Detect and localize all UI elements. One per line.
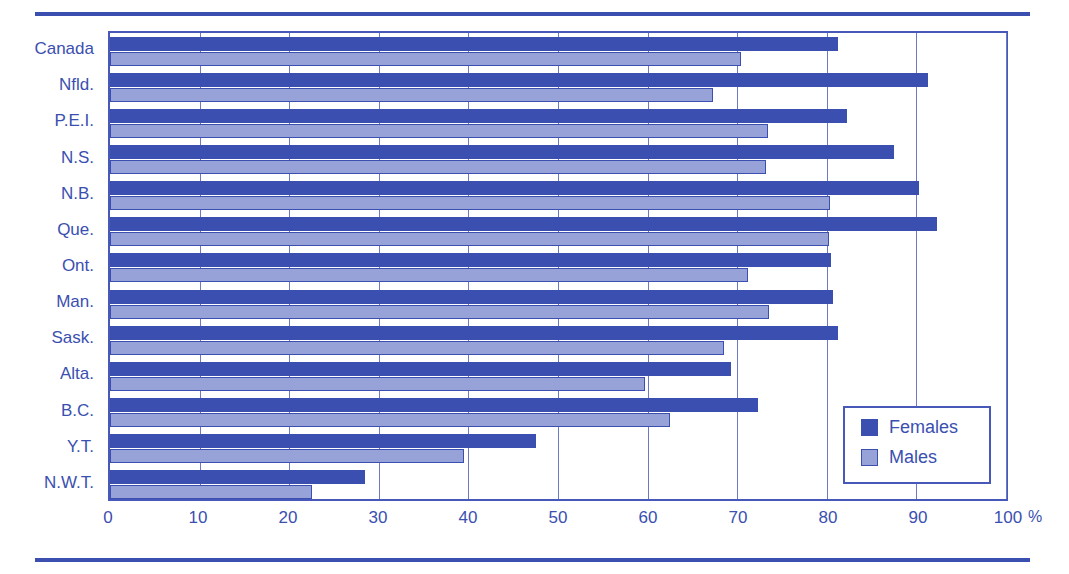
legend-label-females: Females (889, 418, 958, 436)
bar-males (110, 268, 748, 282)
bar-males (110, 160, 766, 174)
bar-row (110, 322, 1006, 358)
x-axis-tick-label: 60 (639, 508, 658, 528)
legend-item-males: Males (861, 448, 989, 466)
bar-females (110, 326, 838, 340)
bar-females (110, 470, 365, 484)
legend-swatch-males-icon (861, 449, 878, 466)
gridline (1006, 33, 1007, 499)
y-axis-tick-label: Alta. (60, 364, 94, 384)
chart-figure: CanadaNfld.P.E.I.N.S.N.B.Que.Ont.Man.Sas… (0, 0, 1069, 574)
x-axis-tick-label: 40 (459, 508, 478, 528)
y-axis-tick-label: B.C. (61, 401, 94, 421)
x-axis-tick-label: 0 (103, 508, 112, 528)
x-axis-tick-label: 100 (994, 508, 1022, 528)
bar-row (110, 105, 1006, 141)
bar-row (110, 141, 1006, 177)
bar-females (110, 145, 894, 159)
bar-males (110, 413, 670, 427)
legend-item-females: Females (861, 418, 989, 436)
top-rule (35, 12, 1030, 16)
chart-legend: Females Males (843, 406, 991, 484)
bar-males (110, 449, 464, 463)
bar-males (110, 88, 713, 102)
y-axis-tick-label: N.S. (61, 148, 94, 168)
bottom-rule (35, 558, 1030, 562)
bar-females (110, 181, 919, 195)
y-axis-tick-label: Canada (34, 39, 94, 59)
bar-females (110, 109, 847, 123)
bar-row (110, 33, 1006, 69)
y-axis-tick-label: Nfld. (59, 75, 94, 95)
x-axis-labels: 0102030405060708090100% (0, 508, 1069, 548)
x-axis-tick-label: 80 (819, 508, 838, 528)
x-axis-tick-label: 90 (909, 508, 928, 528)
bar-females (110, 37, 838, 51)
bar-males (110, 124, 768, 138)
bar-males (110, 485, 312, 499)
x-axis-tick-label: 30 (369, 508, 388, 528)
x-axis-tick-label: 50 (549, 508, 568, 528)
y-axis-tick-label: N.W.T. (44, 473, 94, 493)
bar-row (110, 250, 1006, 286)
y-axis-tick-label: Ont. (62, 256, 94, 276)
bar-row (110, 69, 1006, 105)
bar-females (110, 217, 937, 231)
y-axis-tick-label: N.B. (61, 184, 94, 204)
bar-males (110, 232, 829, 246)
x-axis-tick-label: 70 (729, 508, 748, 528)
bar-males (110, 341, 724, 355)
bar-males (110, 52, 741, 66)
bar-females (110, 290, 833, 304)
bar-males (110, 196, 830, 210)
legend-label-males: Males (889, 448, 937, 466)
bar-females (110, 73, 928, 87)
y-axis-tick-label: Sask. (51, 328, 94, 348)
y-axis-tick-label: Y.T. (67, 437, 94, 457)
y-axis-tick-label: Man. (56, 292, 94, 312)
bar-females (110, 434, 536, 448)
bar-females (110, 398, 758, 412)
x-axis-tick-label: 10 (189, 508, 208, 528)
y-axis-labels: CanadaNfld.P.E.I.N.S.N.B.Que.Ont.Man.Sas… (0, 31, 100, 501)
bar-females (110, 362, 731, 376)
bar-row (110, 178, 1006, 214)
y-axis-tick-label: Que. (57, 220, 94, 240)
bar-row (110, 286, 1006, 322)
x-axis-unit-label: % (1028, 508, 1042, 526)
bar-row (110, 358, 1006, 394)
bar-females (110, 253, 831, 267)
bar-row (110, 214, 1006, 250)
bar-males (110, 377, 645, 391)
y-axis-tick-label: P.E.I. (55, 111, 94, 131)
bar-males (110, 305, 769, 319)
x-axis-tick-label: 20 (279, 508, 298, 528)
legend-swatch-females-icon (861, 419, 878, 436)
